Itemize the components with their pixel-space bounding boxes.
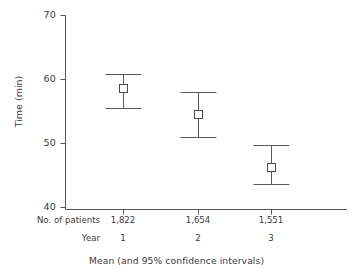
patients-value-year-3: 1,551: [249, 215, 293, 225]
y-tick-label-70: 70: [34, 9, 56, 20]
mean-marker-year-3: [268, 164, 276, 172]
x-axis-ticks: [124, 210, 272, 215]
chart-caption: Mean (and 95% confidence intervals): [0, 255, 353, 266]
y-tick-label-60: 60: [34, 73, 56, 84]
y-tick-label-40: 40: [34, 201, 56, 212]
patients-value-year-1: 1,822: [101, 215, 145, 225]
mean-marker-year-2: [195, 111, 203, 119]
year-value-2: 2: [176, 233, 220, 243]
errorbar-year-2: [181, 93, 217, 138]
y-axis-title: Time (min): [13, 66, 24, 138]
patients-value-year-2: 1,654: [176, 215, 220, 225]
y-tick-label-50: 50: [34, 137, 56, 148]
row-label-no-of-patients: No. of patients: [28, 215, 100, 225]
y-axis-ticks: [61, 16, 66, 208]
row-label-year: Year: [28, 233, 100, 243]
errorbar-year-3: [254, 146, 290, 185]
chart-figure: 70 60 50 40 Time (min) No. of patients 1…: [0, 0, 353, 278]
year-value-3: 3: [249, 233, 293, 243]
errorbar-year-1: [106, 75, 142, 109]
mean-marker-year-1: [120, 85, 128, 93]
year-value-1: 1: [101, 233, 145, 243]
